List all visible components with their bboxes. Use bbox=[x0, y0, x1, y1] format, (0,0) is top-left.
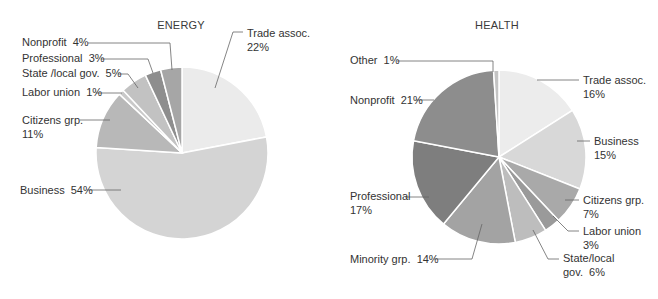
slice-label-business: Business15% bbox=[594, 135, 639, 161]
energy-pie: Trade assoc.22%Business 54%Citizens grp.… bbox=[20, 27, 310, 239]
health-pie: Trade assoc.16%Business15%Citizens grp.7… bbox=[350, 54, 646, 278]
leader-line-other bbox=[397, 61, 493, 72]
slice-label-nonprofit: Nonprofit 21% bbox=[350, 94, 423, 106]
slice-label-labor-union: Labor union3% bbox=[583, 225, 641, 251]
slice-label-other: Other 1% bbox=[350, 54, 400, 66]
slice-label-labor-union: Labor union 1% bbox=[22, 86, 102, 98]
slice-label-trade-assoc: Trade assoc.16% bbox=[583, 74, 646, 100]
slice-label-business: Business 54% bbox=[20, 184, 93, 196]
energy-chart-title: ENERGY bbox=[157, 19, 205, 31]
slice-label-citizens-grp: Citizens grp.7% bbox=[583, 194, 644, 220]
slice-label-state-local-gov: State /local gov. 5% bbox=[22, 67, 122, 79]
slice-label-professional: Professional 3% bbox=[22, 52, 105, 64]
slice-label-minority-grp: Minority grp. 14% bbox=[350, 253, 439, 265]
slice-label-professional: Professional17% bbox=[350, 190, 411, 216]
pie-charts: ENERGY HEALTH Trade assoc.22%Business 54… bbox=[0, 0, 658, 299]
slice-label-trade-assoc: Trade assoc.22% bbox=[247, 27, 310, 53]
health-chart-title: HEALTH bbox=[475, 19, 519, 31]
slice-label-state-local-gov: State/localgov. 6% bbox=[563, 252, 614, 278]
slice-label-citizens-grp: Citizens grp.11% bbox=[22, 114, 83, 140]
slice-label-nonprofit: Nonprofit 4% bbox=[22, 36, 89, 48]
